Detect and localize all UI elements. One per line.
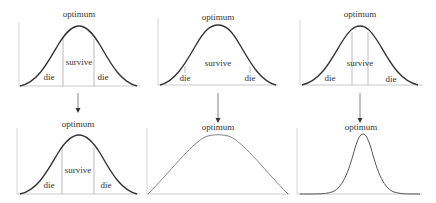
selection-diagram: optimum survive die die optimum survive … — [0, 0, 436, 203]
survive-label: survive — [205, 58, 232, 68]
panel-top-left: optimum survive die die — [19, 9, 140, 86]
panel-bottom-right: optimum — [297, 122, 422, 194]
optimum-label: optimum — [202, 122, 235, 132]
arrows — [76, 93, 363, 123]
panel-top-middle: optimum survive die die — [158, 12, 278, 85]
optimum-label: optimum — [63, 9, 96, 19]
die-label-left: die — [325, 73, 336, 83]
panel-top-right: optimum survive die die — [300, 9, 422, 85]
distribution-curve — [148, 135, 288, 194]
die-label-left: die — [44, 180, 55, 190]
survive-label: survive — [65, 165, 92, 175]
die-label-right: die — [386, 74, 397, 84]
die-label-right: die — [245, 73, 256, 83]
distribution-curve — [160, 25, 276, 85]
die-label-right: die — [98, 72, 109, 82]
die-label-left: die — [44, 72, 55, 82]
down-arrow-icon — [358, 93, 363, 123]
optimum-label: optimum — [345, 122, 378, 132]
panel-bottom-middle: optimum — [147, 122, 290, 194]
die-label-left: die — [180, 73, 191, 83]
panel-bottom-left: optimum survive die die — [17, 119, 140, 194]
survive-label: survive — [66, 57, 93, 67]
distribution-curve — [20, 26, 137, 86]
optimum-label: optimum — [62, 119, 95, 129]
down-arrow-icon — [216, 93, 221, 123]
distribution-curve — [302, 26, 418, 85]
down-arrow-icon — [76, 93, 81, 113]
distribution-curve — [300, 134, 420, 194]
optimum-label: optimum — [344, 9, 377, 19]
optimum-label: optimum — [202, 12, 235, 22]
survive-label: survive — [347, 58, 374, 68]
die-label-right: die — [101, 180, 112, 190]
